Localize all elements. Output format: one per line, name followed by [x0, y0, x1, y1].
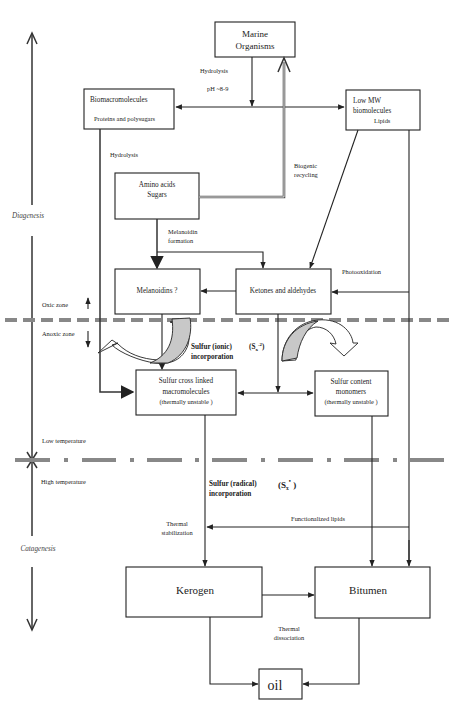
svg-text:Amino acids: Amino acids	[139, 181, 176, 189]
svg-text:stabilization: stabilization	[161, 529, 193, 536]
svg-text:Lipids: Lipids	[374, 117, 391, 124]
svg-text:dissociation: dissociation	[274, 634, 305, 641]
svg-text:Organisms: Organisms	[236, 41, 275, 51]
svg-text:Sulfur content: Sulfur content	[331, 378, 372, 386]
high-temperature-label: High temperature	[41, 478, 86, 485]
svg-text:Thermal: Thermal	[166, 520, 188, 527]
svg-text:Sulfur (ionic): Sulfur (ionic)	[191, 343, 232, 351]
svg-text:incorporation: incorporation	[209, 490, 251, 498]
lowmw-to-ketones-arrow	[310, 130, 358, 268]
svg-text:recycling: recycling	[294, 171, 319, 178]
hydrolysis-top-label: Hydrolysis	[200, 67, 229, 74]
kerogen-to-oil-arrow	[210, 617, 258, 684]
svg-text:Sulfur (radical): Sulfur (radical)	[209, 480, 257, 488]
svg-text:macromolecules: macromolecules	[162, 388, 209, 396]
svg-text:formation: formation	[168, 237, 194, 244]
svg-text:Photooxidation: Photooxidation	[342, 268, 382, 275]
svg-text:Ketones and aldehydes: Ketones and aldehydes	[250, 287, 316, 295]
svg-text:(thermally unstable ): (thermally unstable )	[324, 398, 377, 406]
amino-to-ketones-arrow	[157, 252, 263, 268]
low-temperature-label: Low temperature	[42, 437, 86, 444]
svg-text:Melanoidins ?: Melanoidins ?	[137, 287, 178, 295]
svg-text:monomers: monomers	[336, 388, 367, 396]
diagenesis-label: Diagenesis	[11, 212, 44, 220]
hydrolysis-left-label: Hydrolysis	[110, 151, 139, 158]
svg-text:Kerogen: Kerogen	[176, 584, 214, 596]
oxic-zone-label: Oxic zone	[42, 301, 68, 308]
svg-text:oil: oil	[268, 678, 283, 693]
anoxic-zone-label: Anoxic zone	[42, 330, 75, 337]
sulfur-radical-formula: (Sx• )	[278, 478, 296, 491]
svg-text:biomolecules: biomolecules	[353, 107, 392, 115]
svg-text:Marine: Marine	[242, 29, 268, 39]
svg-text:Low MW: Low MW	[353, 97, 381, 105]
svg-text:Bitumen: Bitumen	[349, 584, 387, 596]
sulfur-ionic-formula: (Sx-2)	[249, 342, 265, 352]
bitumen-to-oil-arrow	[303, 618, 359, 684]
svg-text:(thermally unstable ): (thermally unstable )	[159, 398, 212, 406]
biogenic-recycling-arrow	[199, 62, 284, 197]
catagenesis-label: Catagenesis	[20, 545, 55, 553]
sulfur-ionic-shaded-arrow	[150, 318, 191, 363]
svg-text:Melanoidin: Melanoidin	[168, 228, 198, 235]
svg-text:Sulfur cross linked: Sulfur cross linked	[159, 377, 214, 385]
diagenesis-diagram: Diagenesis Catagenesis Oxic zone Anoxic …	[0, 0, 462, 716]
marine-organisms-box	[215, 22, 295, 57]
biomacromolecules-box	[84, 89, 174, 129]
svg-text:Sugars: Sugars	[147, 191, 167, 199]
svg-text:Functionalized lipids: Functionalized lipids	[291, 515, 345, 522]
svg-text:incorporation: incorporation	[191, 353, 233, 361]
svg-text:Thermal: Thermal	[278, 625, 300, 632]
svg-text:Proteins and polysugars: Proteins and polysugars	[94, 115, 156, 122]
svg-text:Biomacromolecules: Biomacromolecules	[90, 96, 148, 104]
ph-label: pH ~8-9	[207, 85, 228, 92]
svg-text:Biogenic: Biogenic	[294, 162, 317, 169]
